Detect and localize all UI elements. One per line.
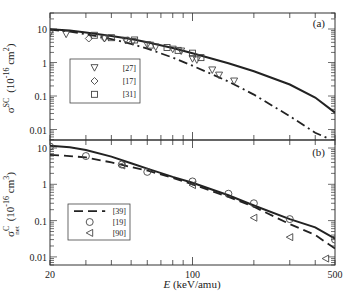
y-tick-label: 10 [37,24,47,35]
panel-b: 1010.10.0120100500(b)σCnet (10-16 cm3)[3… [2,140,343,280]
y-tick-label: 0.01 [30,252,48,263]
legend-label: [27] [123,64,137,73]
axis-labels: E (keV/amu) [162,278,220,291]
legend: [27][17][31] [70,59,140,103]
x-tick-label: 500 [328,269,343,280]
y-tick-label: 1 [42,179,47,190]
legend-label: [31] [123,90,137,99]
legend-label: [17] [123,77,137,86]
chart-figure: 1010.10.01(a)σSC (10-16 cm2)[27][17][31]… [0,0,351,297]
y-tick-label: 1 [42,58,47,69]
y-tick-label: 10 [37,143,47,154]
panel-a: 1010.10.01(a)σSC (10-16 cm2)[27][17][31] [2,13,335,140]
data-point [63,31,70,38]
data-point [322,255,329,262]
y-tick-label: 0.1 [35,216,48,227]
y-axis-label: σCnet (10-16 cm3) [2,172,21,237]
y-tick-label: 0.1 [35,91,48,102]
legend: [39][19][90] [68,204,130,240]
x-tick-label: 20 [45,269,55,280]
legend-label: [90] [113,229,127,238]
legend-label: [19] [113,218,127,227]
data-point [250,214,256,221]
y-axis-label: σSC (10-16 cm2) [2,43,17,113]
data-point [82,153,89,160]
data-point [286,234,293,241]
legend-label: [39] [113,207,127,216]
panel-label: (b) [312,146,325,159]
y-tick-label: 0.01 [30,125,48,136]
panel-label: (a) [313,17,326,30]
x-axis-label: E (keV/amu) [162,278,220,291]
